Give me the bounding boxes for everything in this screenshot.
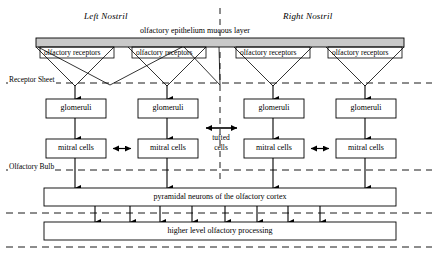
mucous-layer-bar [36, 38, 404, 47]
receptor-funnels [38, 47, 220, 85]
arrows-cortex-to-higher [95, 206, 320, 222]
receptor-box-outlines [40, 47, 402, 58]
glomeruli-box-outlines [46, 99, 396, 118]
olfactory-diagram: Left Nostril Right Nostril olfactory epi… [0, 0, 438, 256]
higher-box-outline [44, 222, 396, 240]
diagram-canvas [0, 0, 438, 256]
mitral-box-outlines [46, 139, 396, 158]
cortex-box-outline [44, 188, 396, 206]
